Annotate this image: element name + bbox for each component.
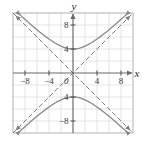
y-tick-label: 8 [64, 20, 69, 30]
y-axis-label: y [71, 0, 77, 12]
y-tick-label: −8 [59, 116, 69, 126]
origin-label: 0 [64, 76, 69, 86]
x-tick-label: −8 [20, 76, 30, 86]
plot-canvas: −8−448844−8 x y 0 [0, 0, 144, 142]
y-tick-label: 4 [64, 44, 69, 54]
x-axis-label: x [134, 67, 140, 79]
x-tick-label: 8 [119, 76, 124, 86]
y-tick-label: 4 [64, 92, 69, 102]
x-tick-label: 4 [95, 76, 100, 86]
hyperbola-graph-figure: −8−448844−8 x y 0 [0, 0, 144, 142]
x-tick-label: −4 [44, 76, 54, 86]
